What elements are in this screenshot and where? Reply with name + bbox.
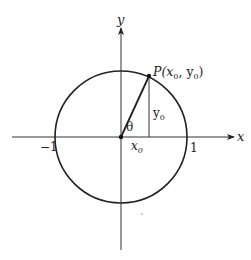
x0-label: x0 xyxy=(131,139,143,155)
x-axis-label: x xyxy=(237,129,245,144)
tick-label-neg-one: −1 xyxy=(40,140,58,154)
point-p-label: P(x0, y0) xyxy=(152,64,203,81)
point-p xyxy=(147,74,151,78)
origin-point xyxy=(119,135,123,139)
y-axis-label: y xyxy=(116,12,125,27)
theta-label: θ xyxy=(126,120,133,134)
unit-circle-diagram: y x −1 1 P(x0, y0) θ x0 y0 xyxy=(0,0,251,260)
y0-label: y0 xyxy=(152,106,165,122)
stray-mark xyxy=(141,213,143,215)
tick-label-one: 1 xyxy=(190,141,198,155)
